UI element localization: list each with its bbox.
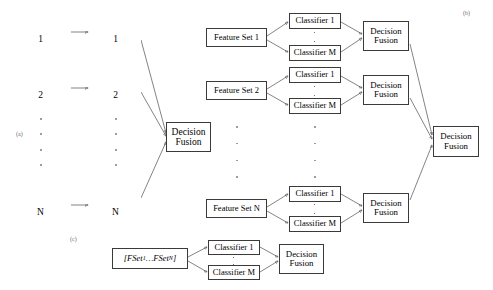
classifier-box-a1-index: 1: [90, 18, 141, 46]
decision-fusion-b1-line2: Fusion: [374, 36, 398, 46]
decision-fusion-a-line1: Decision: [172, 127, 206, 137]
decision-fusion-box-b1: Decision Fusion: [363, 21, 409, 51]
classifier-box-b3-last: Classifier M: [289, 216, 341, 232]
decision-fusion-a-line2: Fusion: [176, 137, 202, 147]
feature-set-box-a1-index: 1: [10, 18, 71, 46]
decision-fusion-b3-line2: Fusion: [374, 208, 398, 218]
decision-fusion-b2-line2: Fusion: [374, 90, 398, 100]
feature-vector-term-1: FSet: [127, 254, 143, 263]
decision-fusion-b-final-line2: Fusion: [444, 142, 468, 152]
classifier-box-b3-first: Classifier 1: [289, 186, 341, 202]
feature-set-box-b2: Feature Set 2: [206, 81, 267, 100]
ellipsis-dots-a-right: [115, 118, 117, 166]
feature-vector-term-2: FSet: [153, 254, 169, 263]
panel-label-a: (a): [16, 131, 23, 137]
feature-set-box-b3: Feature Set N: [206, 199, 267, 218]
decision-fusion-c-line2: Fusion: [290, 259, 314, 269]
classifier-box-a3-index: N: [90, 191, 141, 219]
panel-label-b: (b): [463, 10, 470, 16]
ellipsis-dots-a-left: [40, 118, 42, 166]
classifier-box-c-last: Classifier M: [208, 265, 260, 280]
decision-fusion-box-b2: Decision Fusion: [363, 75, 409, 105]
ellipsis-dots-b1: [314, 32, 315, 42]
ellipsis-dots-b-classifiers: [314, 126, 316, 178]
feature-set-box-b1: Feature Set 1: [206, 28, 267, 47]
decision-fusion-box-b3: Decision Fusion: [363, 193, 409, 223]
classifier-box-b1-first: Classifier 1: [289, 13, 341, 29]
panel-label-c: (c): [70, 236, 77, 242]
ellipsis-dots-b2: [314, 86, 315, 96]
classifier-box-b2-last: Classifier M: [289, 98, 341, 114]
feature-set-box-a2-index: 2: [10, 74, 71, 102]
classifier-box-a2-index: 2: [90, 74, 141, 102]
classifier-box-b2-first: Classifier 1: [289, 67, 341, 83]
feature-vector-box-c: [FSet1 … FSetN]: [112, 248, 188, 269]
decision-fusion-box-b-final: Decision Fusion: [433, 126, 479, 157]
feature-vector-close-bracket: ]: [173, 254, 176, 263]
feature-set-box-a3-index: N: [10, 191, 71, 219]
ellipsis-dots-b3: [314, 204, 315, 214]
ellipsis-dots-b-featuresets: [236, 126, 238, 178]
classifier-box-b1-last: Classifier M: [289, 45, 341, 61]
figure-canvas: (a) Feature Set 1 Feature Set 2 Feature …: [0, 0, 493, 290]
ellipsis-dots-c: [233, 257, 234, 265]
decision-fusion-box-c: Decision Fusion: [279, 244, 324, 274]
decision-fusion-box-a: Decision Fusion: [166, 122, 211, 152]
classifier-box-c-first: Classifier 1: [208, 240, 260, 255]
